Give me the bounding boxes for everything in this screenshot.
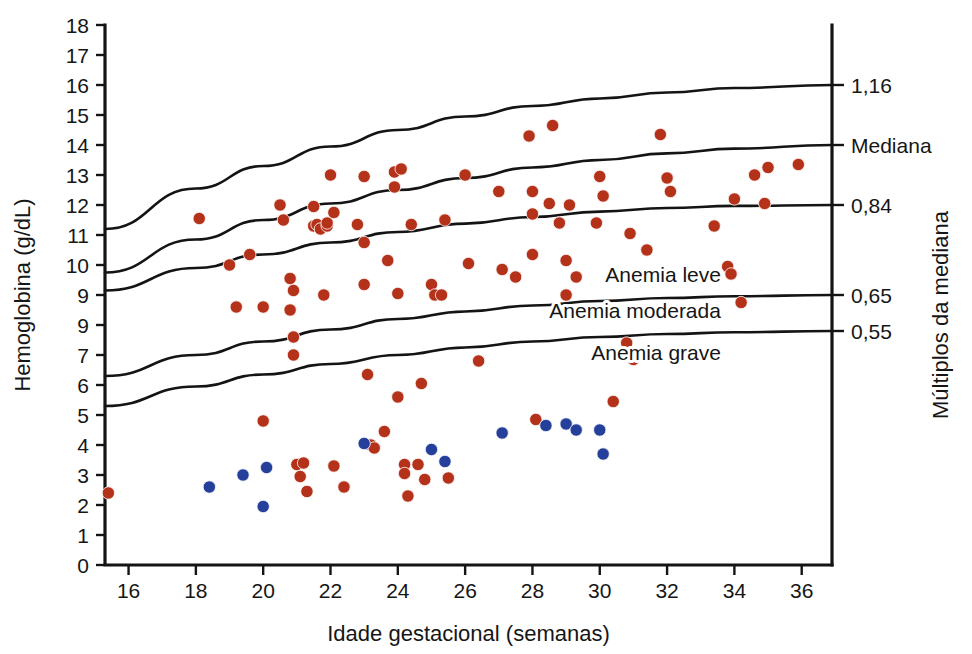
x-tick-label: 36 [790, 579, 813, 602]
y-tick-label: 11 [67, 224, 89, 247]
data-point [708, 220, 720, 232]
y-tick-label: 9 [77, 314, 89, 337]
data-point [496, 427, 508, 439]
chart-figure: 0123456799101112131415161718161820222426… [0, 0, 972, 654]
data-point [287, 331, 299, 343]
data-point [654, 128, 666, 140]
data-point [419, 473, 431, 485]
data-point [277, 214, 289, 226]
data-point [792, 158, 804, 170]
y-tick-label: 17 [66, 44, 89, 67]
y-tick-label: 3 [77, 464, 89, 487]
reference-curve-0-65 [105, 295, 832, 376]
data-point [392, 391, 404, 403]
data-point [392, 287, 404, 299]
data-point [405, 218, 417, 230]
data-point [412, 458, 424, 470]
y-tick-label: 16 [66, 74, 89, 97]
data-point [274, 199, 286, 211]
data-point [570, 424, 582, 436]
y-tick-label: 0 [77, 554, 89, 577]
y-tick-label: 13 [66, 164, 89, 187]
data-point [748, 169, 760, 181]
data-point [546, 119, 558, 131]
data-point [594, 170, 606, 182]
data-point [358, 278, 370, 290]
data-point [526, 248, 538, 260]
data-point [496, 263, 508, 275]
data-point [257, 415, 269, 427]
data-point [597, 190, 609, 202]
data-point [193, 212, 205, 224]
y-tick-label: 15 [66, 104, 89, 127]
y-tick-label: 6 [77, 374, 89, 397]
scatter-plot: 0123456799101112131415161718161820222426… [0, 0, 972, 654]
data-point [223, 259, 235, 271]
data-point [762, 161, 774, 173]
data-point [493, 185, 505, 197]
x-tick-label: 26 [453, 579, 476, 602]
data-point [526, 208, 538, 220]
x-tick-label: 18 [184, 579, 207, 602]
data-point [102, 487, 114, 499]
data-point [563, 199, 575, 211]
data-point [597, 448, 609, 460]
right-axis-label: 0,55 [851, 320, 892, 343]
data-point [462, 257, 474, 269]
data-point [324, 169, 336, 181]
data-point [758, 197, 770, 209]
data-point [244, 248, 256, 260]
data-point [553, 217, 565, 229]
data-point [321, 217, 333, 229]
y-tick-label: 4 [77, 434, 89, 457]
data-point [725, 268, 737, 280]
reference-curve-0-55 [105, 331, 832, 406]
data-point [402, 490, 414, 502]
y-tick-label: 5 [77, 404, 89, 427]
reference-curve-1-16 [105, 85, 832, 229]
right-axis-label: 1,16 [851, 74, 892, 97]
data-point [284, 304, 296, 316]
y-tick-label: 2 [77, 494, 89, 517]
data-point [307, 200, 319, 212]
data-point [509, 271, 521, 283]
data-point [526, 185, 538, 197]
data-point [590, 217, 602, 229]
y-tick-label: 18 [66, 14, 89, 37]
data-point [439, 455, 451, 467]
data-point [358, 170, 370, 182]
x-tick-label: 32 [655, 579, 678, 602]
right-axis-title: Múltiplos da mediana [928, 210, 953, 419]
data-point [260, 461, 272, 473]
data-point [257, 301, 269, 313]
data-point [728, 193, 740, 205]
data-point [398, 467, 410, 479]
data-point [472, 355, 484, 367]
band-annotation-label: Anemia leve [605, 263, 721, 286]
x-tick-label: 20 [252, 579, 275, 602]
data-point [287, 284, 299, 296]
data-point [301, 485, 313, 497]
band-annotation-label: Anemia moderada [549, 299, 721, 322]
data-point [560, 254, 572, 266]
data-point [459, 169, 471, 181]
x-tick-label: 24 [386, 579, 410, 602]
x-tick-label: 28 [521, 579, 544, 602]
data-point [624, 227, 636, 239]
data-point [594, 424, 606, 436]
data-point [435, 289, 447, 301]
data-point [442, 472, 454, 484]
data-point [351, 218, 363, 230]
data-point [395, 163, 407, 175]
right-axis-label: 0,65 [851, 284, 892, 307]
x-axis-title: Idade gestacional (semanas) [327, 621, 610, 646]
data-point [439, 214, 451, 226]
data-point [425, 443, 437, 455]
data-point [570, 271, 582, 283]
x-tick-label: 34 [723, 579, 747, 602]
data-point [735, 296, 747, 308]
data-point [543, 197, 555, 209]
data-point [257, 500, 269, 512]
data-point [415, 377, 427, 389]
x-tick-label: 16 [117, 579, 140, 602]
